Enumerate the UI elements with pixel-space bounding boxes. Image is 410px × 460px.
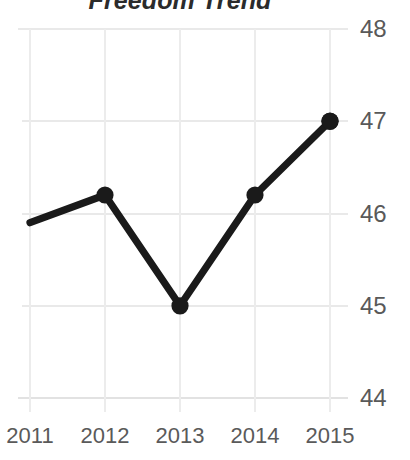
line-chart-plot	[0, 0, 410, 460]
gridlines-horizontal	[18, 29, 348, 398]
y-axis-tick-label-44: 44	[360, 386, 406, 410]
data-point-2011	[96, 186, 113, 203]
data-point-2015	[321, 112, 338, 129]
chart-container: Freedom Trend 48 47 46 45 44 2011	[0, 0, 410, 460]
y-axis-tick-label-47: 47	[360, 109, 406, 133]
y-axis-tick-label-48: 48	[360, 17, 406, 41]
x-axis-tick-label-2015: 2015	[285, 424, 375, 448]
gridlines-vertical	[30, 29, 330, 412]
y-axis-tick-label-46: 46	[360, 202, 406, 226]
data-point-2012	[171, 297, 188, 314]
y-axis-tick-label-45: 45	[360, 294, 406, 318]
data-point-2013	[246, 186, 263, 203]
